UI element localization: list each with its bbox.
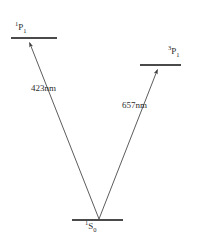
energy-level-diagram: 1P1 3P1 1S0 423nm 657nm: [0, 0, 199, 244]
level-label-3p1-j: 1: [176, 51, 179, 58]
level-label-1s0-j: 0: [93, 226, 96, 233]
transition-arrow-657: [99, 70, 158, 220]
transition-label-657: 657nm: [122, 101, 147, 110]
transition-arrow-423: [30, 43, 100, 220]
level-label-1s0: 1S0: [85, 222, 97, 231]
level-label-1p1-j: 1: [23, 27, 26, 34]
diagram-canvas: [0, 0, 199, 244]
level-label-3p1: 3P1: [168, 47, 180, 56]
level-label-1p1: 1P1: [15, 23, 27, 32]
transition-label-423: 423nm: [31, 84, 56, 93]
